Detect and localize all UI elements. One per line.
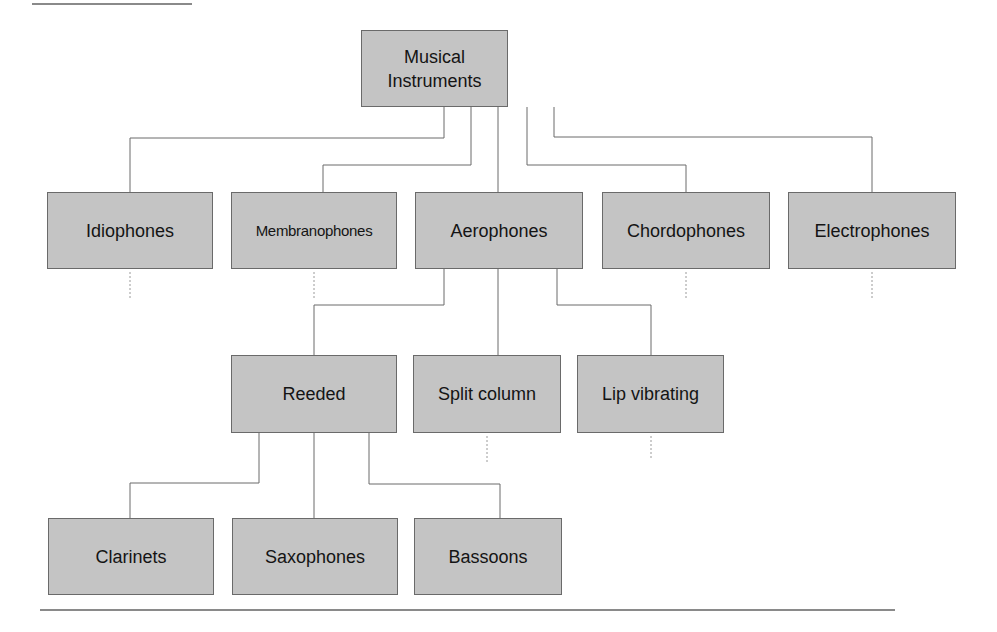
node-label: Electrophones [814,219,929,243]
node-clarinets: Clarinets [48,518,214,595]
node-label: Lip vibrating [602,382,699,406]
node-aerophones: Aerophones [415,192,583,269]
node-idiophones: Idiophones [47,192,213,269]
node-split-column: Split column [413,355,561,433]
node-label: Saxophones [265,545,365,569]
node-reeded: Reeded [231,355,397,433]
node-label: Chordophones [627,219,745,243]
node-label: Membranophones [256,219,373,243]
root-label-line2: Instruments [387,69,481,93]
node-label: Aerophones [450,219,547,243]
node-label: Clarinets [95,545,166,569]
root-label-line1: Musical [404,45,465,69]
node-saxophones: Saxophones [232,518,398,595]
node-bassoons: Bassoons [414,518,562,595]
node-chordophones: Chordophones [602,192,770,269]
node-label: Idiophones [86,219,174,243]
node-label: Bassoons [448,545,527,569]
bottom-rule [40,609,895,611]
node-label: Split column [438,382,536,406]
root-node-musical-instruments: Musical Instruments [361,30,508,107]
node-electrophones: Electrophones [788,192,956,269]
node-label: Reeded [282,382,345,406]
node-lip-vibrating: Lip vibrating [577,355,724,433]
node-membranophones: Membranophones [231,192,397,269]
